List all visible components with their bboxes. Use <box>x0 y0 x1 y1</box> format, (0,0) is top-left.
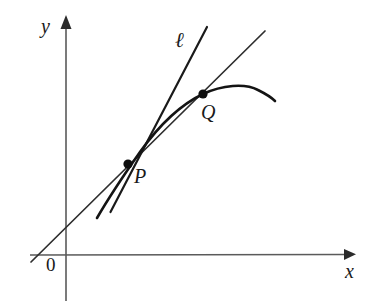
y-axis-label: y <box>41 16 50 36</box>
figure-canvas: y x 0 P Q ℓ <box>0 0 378 301</box>
y-axis-arrowhead <box>61 15 72 29</box>
point-q-dot <box>198 89 207 98</box>
tangent-line-l <box>111 27 208 212</box>
point-p-dot <box>123 159 132 168</box>
function-curve <box>97 86 275 218</box>
point-p-label: P <box>134 166 146 186</box>
x-axis-label: x <box>345 261 354 281</box>
tangent-line-label: ℓ <box>175 30 184 51</box>
point-q-label: Q <box>201 102 215 122</box>
x-axis-arrowhead <box>344 249 356 260</box>
origin-label: 0 <box>46 255 56 274</box>
geometry-diagram <box>0 0 378 301</box>
x-axis-line <box>30 255 348 256</box>
